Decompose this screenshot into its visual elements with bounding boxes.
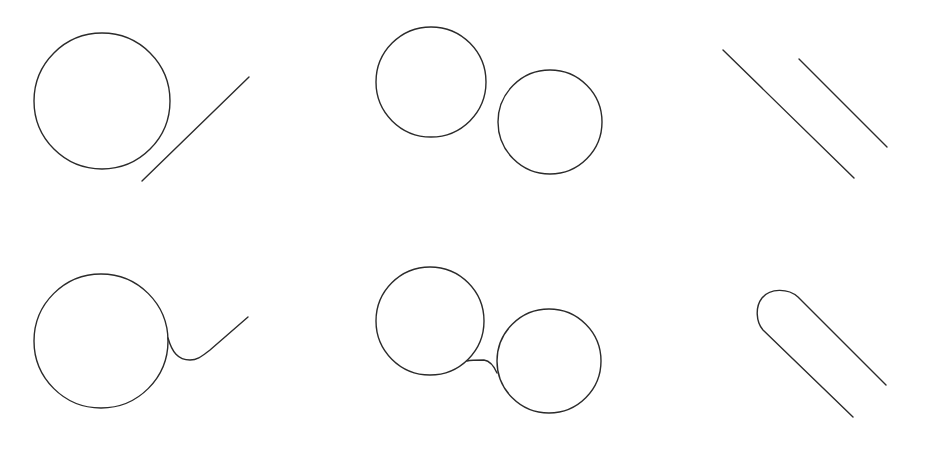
panel-two-circles-after [376, 267, 601, 413]
circle-shape-a [376, 27, 486, 137]
circle-shape-b [497, 309, 601, 413]
line-shape-a [723, 50, 854, 178]
fillet-u-shape [757, 290, 886, 417]
panel-two-circles-before [376, 27, 602, 174]
circle-shape-a [376, 267, 484, 375]
circle-shape [34, 274, 168, 408]
fillet-arc-and-line [168, 317, 248, 360]
fillet-diagram [0, 0, 930, 455]
circle-shape-b [498, 70, 602, 174]
line-shape-b [799, 59, 887, 147]
panel-two-lines-after [757, 290, 886, 417]
panel-two-lines-before [723, 50, 887, 178]
fillet-connector [467, 360, 497, 373]
panel-circle-line-after [34, 274, 248, 408]
line-shape [142, 77, 249, 181]
panel-circle-line-before [34, 33, 249, 181]
circle-shape [34, 33, 170, 169]
